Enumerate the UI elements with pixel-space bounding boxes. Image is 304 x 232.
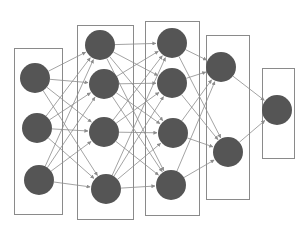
connection-edge [233, 76, 264, 100]
hidden-layer-1-node-2 [89, 69, 119, 99]
connection-edge [115, 43, 156, 44]
connection-edge [186, 50, 207, 60]
hidden-layer-2-node-4 [156, 170, 186, 200]
connection-edge [119, 132, 157, 133]
input-layer-node-2 [22, 113, 52, 143]
connection-edge [48, 52, 85, 71]
neuron-nodes [20, 28, 292, 204]
connection-edge [121, 186, 155, 188]
connection-edge [119, 83, 156, 84]
connection-edge [186, 72, 206, 78]
layer-boxes [15, 22, 295, 220]
hidden-layer-1-node-3 [89, 117, 119, 147]
connection-edge [116, 93, 160, 124]
hidden-layer-3-node-2 [213, 137, 243, 167]
hidden-layer-2-node-2 [157, 68, 187, 98]
neural-network-diagram [0, 0, 304, 232]
connection-edge [50, 93, 91, 120]
hidden-layer-1-node-4 [91, 174, 121, 204]
connection-edge [54, 182, 90, 187]
connection-edge [116, 141, 159, 175]
connection-edge [45, 60, 93, 167]
connection-edge [239, 120, 265, 142]
connection-edge [50, 79, 88, 82]
connection-edge [187, 138, 213, 147]
input-layer-node-1 [20, 63, 50, 93]
hidden-layer-3-node-1 [206, 52, 236, 82]
connection-edge [52, 129, 88, 131]
hidden-layer-2-node-1 [157, 28, 187, 58]
hidden-layer-2-node-3 [158, 118, 188, 148]
output-layer-node-1 [262, 95, 292, 125]
input-layer-node-3 [24, 165, 54, 195]
hidden-layer-1-node-1 [85, 30, 115, 60]
